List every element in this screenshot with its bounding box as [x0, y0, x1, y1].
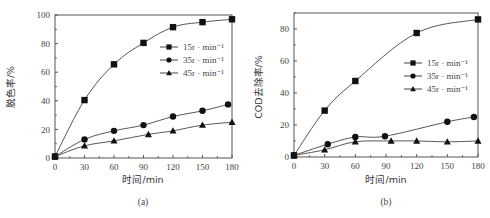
legend-item: 45r · min⁻¹ [160, 68, 224, 78]
y-tick-label: 60 [41, 67, 51, 77]
x-tick-label: 0 [292, 161, 297, 171]
square-marker [166, 44, 171, 49]
y-tick-label: 20 [41, 125, 51, 135]
data-series [52, 16, 235, 160]
legend-item: 35r · min⁻¹ [160, 55, 224, 65]
circle-marker [81, 136, 87, 142]
circle-marker [444, 119, 450, 125]
legend-label: 45r · min⁻¹ [427, 84, 468, 94]
x-axis-label: 时间/min [365, 174, 406, 185]
legend: 15r · min⁻¹35r · min⁻¹45r · min⁻¹ [160, 42, 224, 78]
x-tick-label: 150 [441, 161, 455, 171]
data-series [291, 114, 477, 159]
circle-marker [325, 141, 331, 147]
y-axis-label: COD去除率/% [253, 55, 264, 119]
y-tick-label: 20 [280, 120, 290, 130]
y-tick-label: 40 [280, 88, 290, 98]
x-tick-label: 90 [382, 161, 392, 171]
circle-marker [170, 113, 176, 119]
triangle-marker [228, 119, 235, 125]
x-tick-label: 150 [196, 162, 210, 172]
y-tick-label: 60 [280, 56, 290, 66]
x-tick-label: 0 [53, 162, 58, 172]
circle-marker [225, 101, 231, 107]
panel-label: (b) [380, 197, 391, 208]
panel-label: (a) [138, 197, 149, 208]
x-tick-label: 120 [410, 161, 424, 171]
chart-panel-b: 0306090120150180020406080时间/minCOD去除率/%(… [253, 13, 485, 208]
x-tick-label: 30 [320, 161, 330, 171]
square-marker [413, 30, 419, 36]
circle-marker [199, 108, 205, 114]
x-tick-label: 180 [471, 161, 485, 171]
x-tick-label: 180 [225, 162, 239, 172]
series-line [294, 141, 478, 156]
x-tick-label: 90 [139, 162, 149, 172]
square-marker [170, 24, 176, 30]
x-tick-label: 60 [351, 161, 361, 171]
x-tick-label: 60 [110, 162, 120, 172]
figure: 0306090120150180020406080100时间/min脱色率/%(… [0, 0, 490, 218]
y-tick-label: 40 [41, 96, 51, 106]
square-marker [352, 78, 358, 84]
legend-label: 35r · min⁻¹ [427, 71, 468, 81]
square-marker [140, 40, 146, 46]
circle-marker [471, 114, 477, 120]
legend-item: 15r · min⁻¹ [160, 42, 224, 52]
y-tick-label: 100 [37, 10, 51, 20]
circle-marker [410, 73, 415, 78]
circle-marker [140, 122, 146, 128]
y-tick-label: 80 [41, 39, 51, 49]
x-tick-label: 30 [80, 162, 90, 172]
legend-label: 35r · min⁻¹ [183, 55, 224, 65]
square-marker [229, 16, 235, 22]
legend-label: 45r · min⁻¹ [183, 68, 224, 78]
x-tick-label: 120 [166, 162, 180, 172]
y-axis-label: 脱色率/% [5, 66, 16, 108]
y-tick-label: 80 [280, 24, 290, 34]
circle-marker [382, 133, 388, 139]
square-marker [111, 61, 117, 67]
legend-item: 45r · min⁻¹ [404, 84, 468, 94]
square-marker [475, 16, 481, 22]
y-tick-label: 0 [46, 153, 51, 163]
legend-label: 15r · min⁻¹ [183, 42, 224, 52]
legend-item: 15r · min⁻¹ [404, 58, 468, 68]
square-marker [410, 60, 415, 65]
chart-panel-a: 0306090120150180020406080100时间/min脱色率/%(… [5, 10, 239, 208]
square-marker [199, 19, 205, 25]
x-axis-label: 时间/min [122, 174, 163, 185]
square-marker [321, 107, 327, 113]
y-tick-label: 0 [285, 152, 290, 162]
legend-label: 15r · min⁻¹ [427, 58, 468, 68]
plot-frame [55, 15, 232, 158]
legend-item: 35r · min⁻¹ [404, 71, 468, 81]
circle-marker [111, 128, 117, 134]
square-marker [81, 97, 87, 103]
triangle-marker [474, 137, 481, 143]
legend: 15r · min⁻¹35r · min⁻¹45r · min⁻¹ [404, 58, 468, 94]
circle-marker [166, 57, 171, 62]
